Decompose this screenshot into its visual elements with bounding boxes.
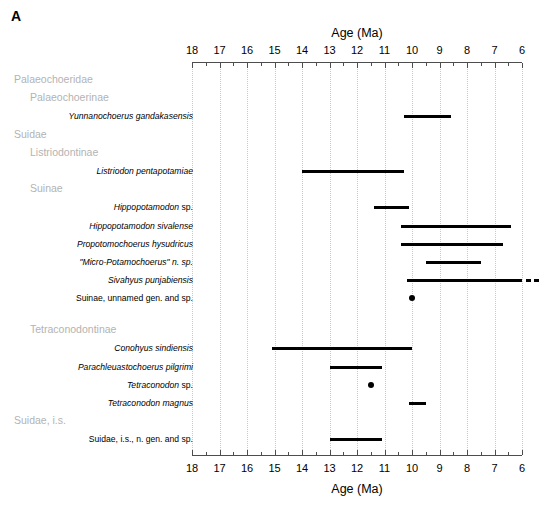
axis-tick-minor [426,63,427,66]
tick-label: 12 [346,462,368,474]
axis-tick-major [220,63,221,68]
axis-tick-minor [398,452,399,455]
taxon-group-label: Palaeochoeridae [14,73,93,85]
axis-tick-minor [343,452,344,455]
axis-tick-minor [508,63,509,66]
axis-tick-minor [233,63,234,66]
tick-label: 11 [374,44,396,56]
taxon-range-bar [407,279,523,282]
tick-label: 17 [209,44,231,56]
taxon-range-row: Suinae, unnamed gen. and sp. [0,290,543,306]
taxon-range-bar [426,261,481,264]
axis-tick-minor [206,63,207,66]
taxon-range-row: Sivahyus punjabiensis [0,272,543,288]
tick-label: 18 [181,462,203,474]
tick-label: 9 [429,44,451,56]
taxon-range-continuation-dash [534,279,539,282]
tick-label: 14 [291,462,313,474]
taxon-range-bar [401,225,511,228]
axis-tick-major [275,450,276,455]
tick-label: 7 [484,462,506,474]
tick-label: 15 [264,462,286,474]
taxon-group-row: Listriodontinae [0,145,543,161]
axis-tick-major [247,450,248,455]
tick-label: 16 [236,44,258,56]
axis-tick-minor [233,452,234,455]
taxon-range-bar [374,206,410,209]
tick-labels-top: 1817161514131211109876 [192,44,522,58]
axis-tick-minor [481,63,482,66]
taxon-range-row: Listriodon pentapotamiae [0,163,543,179]
taxon-range-continuation-dash [526,279,531,282]
tick-label: 11 [374,462,396,474]
taxon-range-row: Hippopotamodon sivalense [0,218,543,234]
axis-tick-major [412,63,413,68]
axis-tick-minor [426,452,427,455]
taxon-name-label: Yunnanochoerus gandakasensis [69,111,193,121]
axis-tick-minor [453,452,454,455]
taxon-group-label: Palaeochoerinae [30,91,109,103]
axis-tick-major [302,450,303,455]
taxon-group-row: Palaeochoeridae [0,72,543,88]
taxon-name-label: Conohyus sindiensis [114,343,193,353]
taxon-range-bar [330,438,382,441]
axis-tick-minor [508,452,509,455]
tick-label: 18 [181,44,203,56]
taxon-group-label: Suidae, i.s. [14,414,66,426]
axis-tick-minor [453,63,454,66]
taxon-name-label: Parachleuastochoerus pilgrimi [78,362,193,372]
taxon-range-bar [409,402,426,405]
taxon-occurrence-point [368,382,374,388]
tick-label: 7 [484,44,506,56]
axis-tick-major [522,450,523,455]
taxon-name-label: Tetraconodon magnus [108,398,193,408]
taxon-range-bar [401,243,503,246]
taxon-range-row: "Micro-Potamochoerus" n. sp. [0,254,543,270]
axis-line-bottom [192,455,522,456]
axis-tick-major [412,450,413,455]
tick-label: 13 [319,462,341,474]
tick-label: 16 [236,462,258,474]
taxon-range-bar [272,347,412,350]
axis-title-bottom: Age (Ma) [192,482,522,496]
tick-label: 6 [511,44,533,56]
taxon-group-row: Suidae [0,127,543,143]
taxon-range-row: Parachleuastochoerus pilgrimi [0,359,543,375]
axis-tick-minor [206,452,207,455]
axis-tick-major [192,63,193,68]
taxon-name-label: Hippopotamodon sivalense [89,221,193,231]
taxon-range-row: Hippopotamodon sp. [0,199,543,215]
taxon-group-row: Suinae [0,181,543,197]
axis-tick-major [495,450,496,455]
taxon-range-row: Yunnanochoerus gandakasensis [0,108,543,124]
axis-tick-major [330,450,331,455]
axis-tick-major [247,63,248,68]
taxon-name-label: Suinae, unnamed gen. and sp. [76,293,193,303]
axis-tick-major [440,63,441,68]
axis-tick-major [385,63,386,68]
axis-tick-major [302,63,303,68]
taxon-group-row: Suidae, i.s. [0,413,543,429]
axis-tick-minor [288,63,289,66]
axis-tick-minor [371,63,372,66]
taxon-range-row: Tetraconodon sp. [0,377,543,393]
tick-labels-bottom: 1817161514131211109876 [192,462,522,476]
axis-tick-major [385,450,386,455]
axis-tick-minor [481,452,482,455]
taxon-name-label: Propotomochoerus hysudricus [77,239,193,249]
taxon-range-bar [302,170,404,173]
axis-tick-major [220,450,221,455]
axis-tick-major [357,450,358,455]
axis-tick-minor [261,63,262,66]
taxon-group-label: Suinae [30,182,63,194]
taxon-group-row: Palaeochoerinae [0,90,543,106]
taxon-group-label: Tetraconodontinae [30,323,116,335]
tick-label: 10 [401,462,423,474]
axis-tick-major [330,63,331,68]
axis-title-top: Age (Ma) [192,26,522,40]
taxon-range-row: Propotomochoerus hysudricus [0,236,543,252]
tick-label: 8 [456,462,478,474]
taxon-name-label: Listriodon pentapotamiae [96,166,193,176]
axis-tick-major [357,63,358,68]
axis-tick-minor [316,63,317,66]
